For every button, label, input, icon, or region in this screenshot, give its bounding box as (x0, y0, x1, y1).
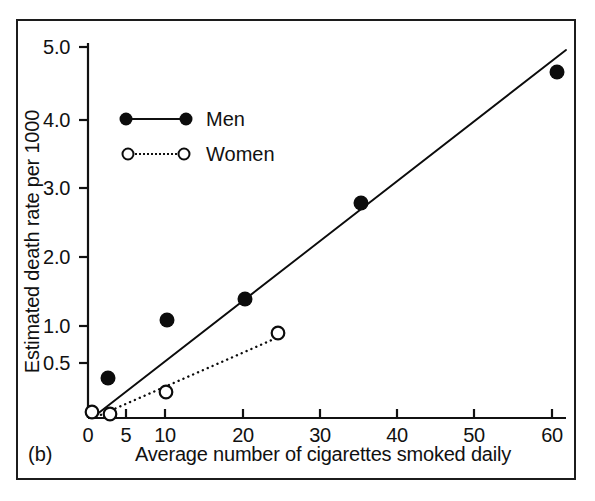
y-axis-title: Estimated death rate per 1000 (21, 62, 44, 422)
y-axis-tick-label: 5.0 (10, 36, 70, 59)
filled-circle-icon (120, 112, 133, 125)
legend-line-solid-icon (126, 118, 186, 120)
legend-item-women: Women (120, 136, 350, 171)
panel-letter: (b) (28, 443, 52, 466)
chart-legend: Men Women (120, 101, 350, 171)
legend-item-men: Men (120, 101, 350, 136)
figure-panel: 0.51.02.03.04.05.0 05102030405060 Estima… (0, 0, 595, 501)
figure-border (16, 19, 576, 480)
legend-label-women: Women (206, 142, 275, 165)
legend-line-dotted-icon (128, 153, 184, 155)
open-circle-icon (122, 147, 135, 160)
legend-swatch-women (120, 147, 192, 161)
x-axis-title: Average number of cigarettes smoked dail… (88, 443, 558, 466)
legend-swatch-men (120, 112, 192, 126)
legend-label-men: Men (206, 107, 245, 130)
filled-circle-icon (180, 112, 193, 125)
open-circle-icon (178, 147, 191, 160)
